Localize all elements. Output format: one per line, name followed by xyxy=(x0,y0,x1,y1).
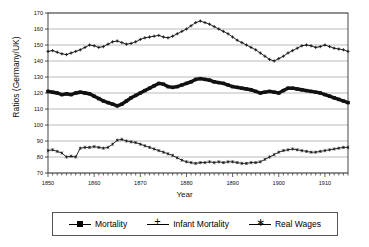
square-marker-icon xyxy=(69,220,91,229)
data-series xyxy=(46,19,349,165)
chart-container: Ratios (Germany/UK) 70809010011012013014… xyxy=(0,0,369,247)
svg-text:1890: 1890 xyxy=(226,180,238,186)
svg-text:110: 110 xyxy=(34,106,43,112)
legend-label-real-wages: Real Wages xyxy=(275,219,321,229)
legend-label-mortality: Mortality xyxy=(95,219,127,229)
svg-text:70: 70 xyxy=(37,170,43,176)
svg-text:160: 160 xyxy=(34,26,43,32)
star-marker-icon xyxy=(249,220,271,229)
svg-text:130: 130 xyxy=(34,74,43,80)
svg-text:150: 150 xyxy=(34,42,43,48)
legend-item-infant-mortality[interactable]: Infant Mortality xyxy=(147,219,229,229)
plot-area: 708090100110120130140150160170 185018601… xyxy=(0,0,369,200)
x-axis-title: Year xyxy=(0,190,369,199)
svg-text:1860: 1860 xyxy=(88,180,100,186)
svg-text:80: 80 xyxy=(37,154,43,160)
svg-text:1870: 1870 xyxy=(134,180,146,186)
legend-item-mortality[interactable]: Mortality xyxy=(69,219,127,229)
svg-text:1910: 1910 xyxy=(319,180,331,186)
chart-legend: Mortality Infant Mortality Real Wages xyxy=(52,212,338,236)
svg-text:1850: 1850 xyxy=(42,180,54,186)
svg-text:120: 120 xyxy=(34,90,43,96)
legend-label-infant-mortality: Infant Mortality xyxy=(173,219,229,229)
svg-text:1900: 1900 xyxy=(273,180,285,186)
plus-marker-icon xyxy=(147,220,169,229)
svg-text:1880: 1880 xyxy=(180,180,192,186)
svg-text:140: 140 xyxy=(34,58,43,64)
svg-text:170: 170 xyxy=(34,10,43,16)
svg-text:90: 90 xyxy=(37,138,43,144)
y-axis-ticks: 708090100110120130140150160170 xyxy=(34,10,48,176)
legend-item-real-wages[interactable]: Real Wages xyxy=(249,219,321,229)
x-axis-ticks: 1850186018701880189019001910 xyxy=(42,173,348,186)
svg-text:100: 100 xyxy=(34,122,43,128)
gridlines xyxy=(48,13,348,173)
